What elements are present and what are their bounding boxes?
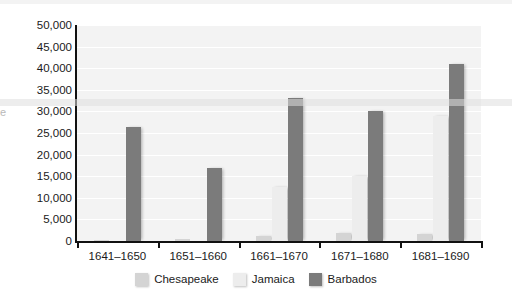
x-axis-tick-label: 1651–1660 xyxy=(158,249,238,263)
bar-chesapeake-1661–1670 xyxy=(256,236,271,241)
bar-chart: e 05,00010,00015,00020,00025,00030,00035… xyxy=(0,0,512,302)
bar-jamaica-1661–1670 xyxy=(272,187,287,241)
gridline xyxy=(77,47,481,48)
x-axis-tick xyxy=(239,243,241,248)
legend-label: Barbados xyxy=(328,272,377,286)
gridline xyxy=(77,25,481,26)
chart-legend: ChesapeakeJamaicaBarbados xyxy=(0,272,512,286)
x-axis-tick-label: 1681–1690 xyxy=(401,249,481,263)
gridline xyxy=(77,68,481,69)
x-axis-tick-label: 1671–1680 xyxy=(320,249,400,263)
y-axis-tick-label: 20,000 xyxy=(8,149,72,161)
y-axis-tick-label: 40,000 xyxy=(8,62,72,74)
legend-swatch-jamaica-icon xyxy=(233,273,246,286)
legend-item-barbados[interactable]: Barbados xyxy=(309,272,377,286)
y-axis-tick-label: 30,000 xyxy=(8,105,72,117)
y-axis-tick-label: 45,000 xyxy=(8,41,72,53)
x-axis-tick xyxy=(319,243,321,248)
y-axis-tick-label: 50,000 xyxy=(8,19,72,31)
x-axis-tick-label: 1641–1650 xyxy=(77,249,157,263)
bar-barbados-1671–1680 xyxy=(368,111,383,241)
bar-chesapeake-1651–1660 xyxy=(175,239,190,241)
legend-label: Chesapeake xyxy=(154,272,219,286)
bar-barbados-1641–1650 xyxy=(126,127,141,241)
legend-item-chesapeake[interactable]: Chesapeake xyxy=(135,272,219,286)
y-axis-tick-label: 0 xyxy=(8,235,72,247)
y-axis-tick-label: 25,000 xyxy=(8,127,72,139)
x-axis-line xyxy=(75,241,483,243)
legend-item-jamaica[interactable]: Jamaica xyxy=(233,272,295,286)
y-axis-tick-label: 15,000 xyxy=(8,170,72,182)
x-axis-tick xyxy=(158,243,160,248)
bar-barbados-1661–1670 xyxy=(288,98,303,241)
x-axis-tick xyxy=(77,243,79,248)
y-axis-line xyxy=(75,25,77,243)
legend-swatch-barbados-icon xyxy=(309,273,322,286)
bar-jamaica-1671–1680 xyxy=(352,176,367,241)
gridline xyxy=(77,111,481,112)
y-axis-labels: 05,00010,00015,00020,00025,00030,00035,0… xyxy=(6,25,72,241)
bar-barbados-1651–1660 xyxy=(207,168,222,241)
bar-chesapeake-1671–1680 xyxy=(336,233,351,241)
legend-swatch-chesapeake-icon xyxy=(135,273,148,286)
scan-artifact-band-top xyxy=(0,0,512,4)
bar-barbados-1681–1690 xyxy=(449,64,464,241)
bar-jamaica-1681–1690 xyxy=(433,116,448,241)
legend-label: Jamaica xyxy=(252,272,295,286)
x-axis-tick xyxy=(481,243,483,248)
y-axis-tick-label: 10,000 xyxy=(8,192,72,204)
bar-chesapeake-1641–1650 xyxy=(94,240,109,242)
bar-chesapeake-1681–1690 xyxy=(417,234,432,241)
gridline xyxy=(77,90,481,91)
y-axis-tick-label: 5,000 xyxy=(8,213,72,225)
y-axis-tick-label: 35,000 xyxy=(8,84,72,96)
x-axis-tick-label: 1661–1670 xyxy=(239,249,319,263)
x-axis-tick xyxy=(400,243,402,248)
